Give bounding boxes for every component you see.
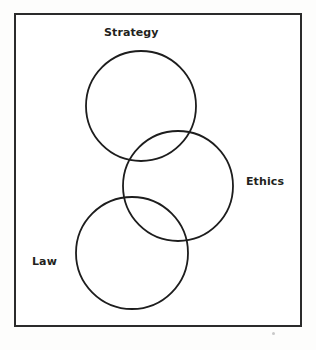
figure-frame	[14, 13, 302, 327]
scan-artifact-mark	[272, 332, 275, 335]
label-strategy: Strategy	[104, 26, 159, 39]
label-ethics: Ethics	[246, 175, 284, 188]
label-law: Law	[32, 255, 57, 268]
diagram-canvas: Strategy Ethics Law	[0, 0, 316, 350]
